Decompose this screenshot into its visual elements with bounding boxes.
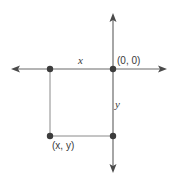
origin-point (110, 66, 116, 72)
origin-label: (0, 0) (117, 55, 140, 66)
vertical-axis (110, 13, 117, 173)
y-point (110, 133, 116, 139)
coordinate-diagram: x (0, 0) y (x, y) (0, 0, 176, 180)
x-segment-label: x (77, 54, 83, 66)
x-point (47, 66, 53, 72)
xy-point (47, 133, 53, 139)
projection-lines (50, 69, 113, 136)
horizontal-axis (11, 66, 167, 73)
point-label: (x, y) (52, 140, 74, 151)
y-segment-label: y (114, 98, 120, 110)
